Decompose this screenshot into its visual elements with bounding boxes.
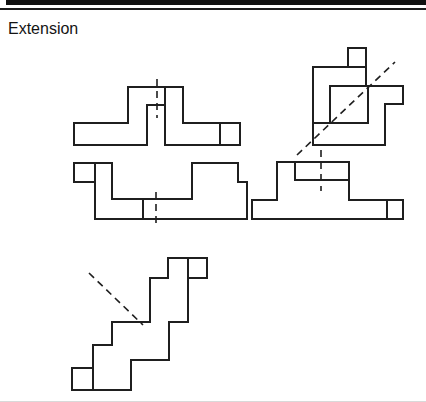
symmetry-shapes-figure [0, 0, 426, 402]
shape-step-bracket-vertical-mirror [252, 150, 403, 219]
shape-staircase-diagonal-mirror [72, 258, 207, 390]
mirror-line-dashed [297, 62, 395, 155]
mirror-line-dashed [89, 273, 143, 325]
shape-cross-with-bottom-notch [74, 79, 240, 145]
shape-block-with-inner-square-diagonal-mirror [297, 48, 403, 155]
shape-wide-bracket-vertical-mirror [74, 163, 247, 226]
